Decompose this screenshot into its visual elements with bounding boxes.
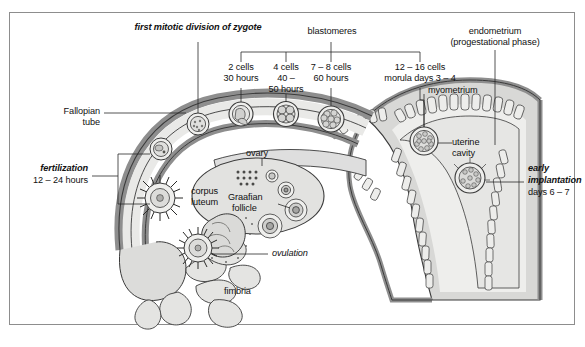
label-myometrium: myometrium <box>428 85 478 95</box>
label-4-cells-line3: 50 hours <box>256 84 316 94</box>
label-morula-line1: 12 – 16 cells <box>380 62 460 72</box>
label-ovary: ovary <box>246 148 268 158</box>
label-uterine-cavity-line1: uterine <box>452 137 479 147</box>
label-morula-line2: morula days 3 – 4 <box>368 73 472 83</box>
embryo-4-cell <box>274 102 299 127</box>
label-early-implantation-line2: implantation <box>528 175 581 185</box>
label-endometrium-line1: endometrium <box>440 26 550 36</box>
embryo-2-cell <box>229 102 253 126</box>
figure-canvas: first mitotic division of zygote blastom… <box>0 0 585 347</box>
label-fimbria: fimbria <box>224 286 251 296</box>
tube-ampulla <box>119 242 186 301</box>
embryo-morula <box>410 127 438 155</box>
label-fallopian-tube-line2: tube <box>34 117 100 127</box>
label-blastomeres: blastomeres <box>286 26 378 36</box>
label-graafian-follicle-line2: follicle <box>232 203 257 213</box>
ovary <box>192 150 366 264</box>
label-corpus-luteum-line1: corpus <box>176 186 218 196</box>
label-7-8-cells-line2: 60 hours <box>302 73 360 83</box>
label-ovulation: ovulation <box>272 248 308 258</box>
label-graafian-follicle-line1: Graafian <box>228 192 262 202</box>
label-early-implantation-line3: days 6 – 7 <box>528 187 569 197</box>
label-corpus-luteum-line2: luteum <box>176 197 218 207</box>
embryo-pronuclei <box>187 113 209 135</box>
label-fertilization-line2: 12 – 24 hours <box>6 175 88 185</box>
label-first-mitotic-division: first mitotic division of zygote <box>100 22 296 32</box>
label-fertilization-line1: fertilization <box>10 163 88 173</box>
label-fallopian-tube-line1: Fallopian <box>34 106 100 116</box>
label-early-implantation-line1: early <box>528 163 549 173</box>
anatomy-illustration <box>0 0 585 347</box>
label-7-8-cells-line1: 7 – 8 cells <box>300 62 362 72</box>
embryo-8-cell <box>318 106 344 132</box>
label-endometrium-line2: (progestational phase) <box>428 37 562 47</box>
embryo-zygote <box>150 138 172 160</box>
label-uterine-cavity-line2: cavity <box>452 148 475 158</box>
